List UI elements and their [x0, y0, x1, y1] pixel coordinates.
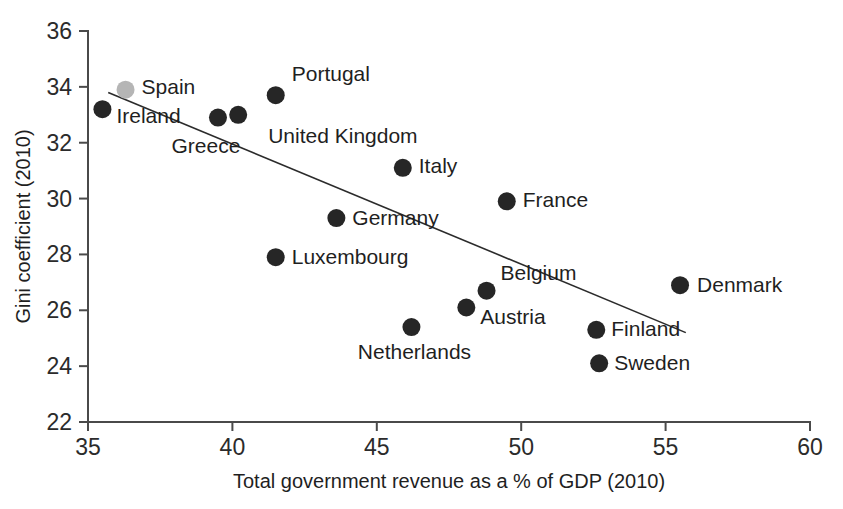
y-tick-label: 32 [46, 130, 72, 156]
point-label: Luxembourg [292, 245, 409, 268]
point-label: France [523, 188, 588, 211]
data-point-sweden: Sweden [590, 351, 690, 374]
y-tick-label: 22 [46, 409, 72, 435]
point-label: Ireland [116, 104, 180, 127]
data-point-spain: Spain [117, 75, 196, 98]
point-label: Spain [142, 75, 196, 98]
point-marker[interactable] [457, 298, 475, 316]
point-marker[interactable] [587, 321, 605, 339]
data-point-finland: Finland [587, 317, 680, 340]
point-marker[interactable] [327, 209, 345, 227]
point-label: Italy [419, 154, 458, 177]
data-point-ireland: Ireland [93, 100, 180, 127]
y-tick-label: 36 [46, 18, 72, 44]
data-point-germany: Germany [327, 206, 439, 229]
y-axis-title: Gini coefficient (2010) [12, 129, 34, 323]
x-tick-label: 35 [75, 434, 101, 460]
data-point-denmark: Denmark [671, 273, 783, 296]
point-label: Belgium [501, 261, 577, 284]
point-label: Netherlands [358, 340, 471, 363]
y-tick-label: 28 [46, 241, 72, 267]
point-marker[interactable] [498, 192, 516, 210]
x-tick-label: 45 [364, 434, 390, 460]
data-point-luxembourg: Luxembourg [267, 245, 409, 268]
point-marker[interactable] [229, 106, 247, 124]
point-marker[interactable] [671, 276, 689, 294]
point-label: Germany [352, 206, 439, 229]
chart-canvas: 2224262830323436354045505560 IrelandSpai… [0, 0, 843, 509]
point-marker[interactable] [117, 81, 135, 99]
point-label: Denmark [697, 273, 783, 296]
point-label: Sweden [614, 351, 690, 374]
point-marker[interactable] [93, 100, 111, 118]
scatter-plot-figure: 2224262830323436354045505560 IrelandSpai… [0, 0, 843, 509]
point-label: Portugal [292, 62, 370, 85]
data-point-belgium: Belgium [478, 261, 577, 299]
point-marker[interactable] [590, 354, 608, 372]
data-point-united-kingdom: United Kingdom [229, 106, 417, 148]
y-tick-label: 26 [46, 297, 72, 323]
y-tick-label: 24 [46, 353, 72, 379]
point-marker[interactable] [394, 159, 412, 177]
data-point-france: France [498, 188, 588, 211]
data-point-italy: Italy [394, 154, 458, 177]
data-point-netherlands: Netherlands [358, 318, 471, 363]
point-marker[interactable] [402, 318, 420, 336]
x-tick-label: 40 [220, 434, 246, 460]
point-marker[interactable] [478, 282, 496, 300]
y-tick-label: 30 [46, 186, 72, 212]
data-points: IrelandSpainGreeceUnited KingdomPortugal… [93, 62, 782, 374]
point-marker[interactable] [267, 248, 285, 266]
point-label: United Kingdom [268, 124, 417, 147]
point-label: Finland [611, 317, 680, 340]
point-label: Greece [172, 134, 241, 157]
point-marker[interactable] [209, 109, 227, 127]
point-label: Austria [480, 305, 546, 328]
x-tick-label: 55 [653, 434, 679, 460]
data-point-portugal: Portugal [267, 62, 370, 104]
point-marker[interactable] [267, 86, 285, 104]
axis-titles: Total government revenue as a % of GDP (… [12, 129, 665, 492]
x-tick-label: 50 [508, 434, 534, 460]
data-point-austria: Austria [457, 298, 546, 328]
y-tick-label: 34 [46, 74, 72, 100]
x-axis-title: Total government revenue as a % of GDP (… [233, 470, 665, 492]
x-tick-label: 60 [797, 434, 823, 460]
